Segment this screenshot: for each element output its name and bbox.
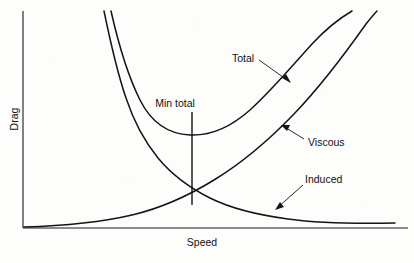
x-axis-label: Speed xyxy=(187,236,218,248)
total-drag-curve xyxy=(111,11,352,135)
y-axis-label: Drag xyxy=(8,107,20,130)
viscous-drag-curve xyxy=(24,11,377,227)
drag-curve-plot: Min total Total Viscous Induced Drag Spe… xyxy=(0,0,414,263)
min-total-label: Min total xyxy=(155,97,195,109)
induced-label: Induced xyxy=(305,173,343,185)
drag-vs-speed-figure: Min total Total Viscous Induced Drag Spe… xyxy=(0,0,414,263)
total-label: Total xyxy=(232,52,254,64)
viscous-arrow-icon xyxy=(281,125,290,131)
viscous-label: Viscous xyxy=(308,136,345,148)
induced-drag-curve xyxy=(104,11,395,223)
